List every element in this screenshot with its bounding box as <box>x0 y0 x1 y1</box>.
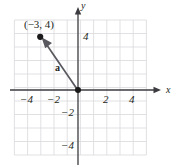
vector-a <box>47 45 78 90</box>
origin-marker <box>75 87 81 93</box>
point-marker <box>37 34 43 40</box>
x-tick-neg-4: −4 <box>20 94 33 105</box>
y-tick-neg-4: −4 <box>61 140 74 151</box>
x-axis-arrowhead <box>154 87 162 93</box>
coordinate-plane-figure: x y −4 −2 2 4 4 −2 −4 (−3, 4) a <box>0 0 177 168</box>
x-tick-neg-2: −2 <box>47 94 60 105</box>
y-axis-label: y <box>81 1 85 11</box>
vector-name-label: a <box>55 63 60 73</box>
x-tick-pos-2: 2 <box>103 94 109 105</box>
x-axis-label: x <box>166 85 170 95</box>
x-tick-pos-4: 4 <box>129 94 135 105</box>
y-tick-neg-2: −2 <box>61 107 74 118</box>
y-tick-pos-4: 4 <box>83 31 89 42</box>
point-coordinate-label: (−3, 4) <box>24 19 54 30</box>
